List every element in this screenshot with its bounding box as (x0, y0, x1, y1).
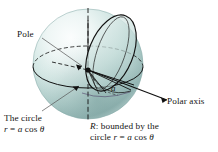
label-radius-a-text: a (111, 83, 116, 93)
label-radius-a: a (111, 83, 116, 94)
caption-the-circle-line2: r = a cos θ (4, 124, 44, 135)
caption-region-r-circle-word: circle (90, 132, 113, 142)
caption-the-circle: The circle r = a cos θ (4, 113, 44, 135)
caption-region-r-line1: R: bounded by the (90, 121, 159, 132)
caption-the-circle-cos: cos (22, 124, 39, 134)
caption-region-r-cos: cos (132, 132, 149, 142)
caption-region-r-theta: θ (149, 132, 154, 142)
caption-the-circle-theta: θ (40, 124, 45, 134)
caption-region-r-text: : bounded by the (96, 121, 159, 131)
caption-region-r-line2: circle r = a cos θ (90, 132, 159, 143)
caption-the-circle-line1: The circle (4, 113, 44, 124)
pole-point (85, 67, 90, 72)
caption-the-circle-eq: = (8, 124, 18, 134)
caption-region-r-eq: = (117, 132, 127, 142)
label-pole: Pole (17, 29, 34, 40)
caption-region-r: R: bounded by the circle r = a cos θ (90, 121, 159, 143)
label-polar-axis: Polar axis (167, 96, 205, 107)
